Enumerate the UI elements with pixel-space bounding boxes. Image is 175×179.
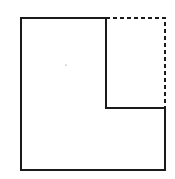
l-shape-diagram [0, 0, 175, 179]
dashed-removed-corner-outline [106, 18, 165, 108]
solid-l-shape-outline [21, 18, 165, 170]
center-dot [65, 64, 66, 65]
